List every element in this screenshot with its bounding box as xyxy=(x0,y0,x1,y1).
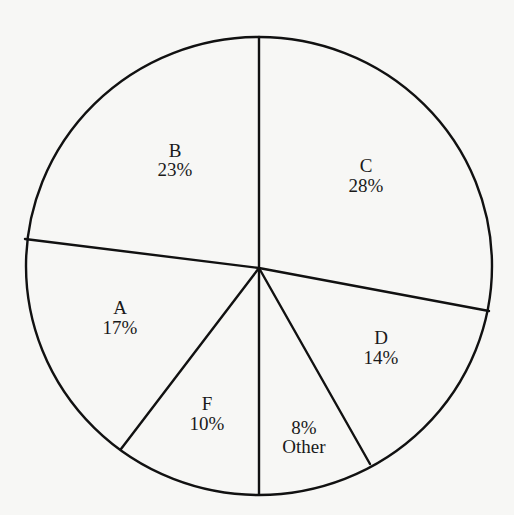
slice-d-value: 14% xyxy=(364,347,399,368)
slice-label-f: F 10% xyxy=(190,393,225,434)
divider-c-d xyxy=(259,268,489,311)
slice-d-name: D xyxy=(374,327,388,348)
slice-b-name: B xyxy=(169,140,182,161)
slice-label-d: D 14% xyxy=(364,327,399,368)
slice-c-value: 28% xyxy=(349,175,384,196)
slice-dividers xyxy=(25,37,489,494)
slice-a-value: 17% xyxy=(103,317,138,338)
slice-a-name: A xyxy=(113,297,127,318)
slice-other-name: Other xyxy=(282,436,326,457)
slice-b-value: 23% xyxy=(158,159,193,180)
slice-c-name: C xyxy=(360,155,373,176)
divider-a-b xyxy=(25,239,259,268)
slice-label-a: A 17% xyxy=(103,297,138,338)
pie-chart: B 23% C 28% A 17% D 14% F 10% 8% Other xyxy=(0,0,514,515)
slice-f-value: 10% xyxy=(190,413,225,434)
slice-other-value: 8% xyxy=(291,417,317,438)
slice-label-b: B 23% xyxy=(158,140,193,180)
slice-f-name: F xyxy=(202,393,213,414)
slice-label-c: C 28% xyxy=(349,155,384,196)
slice-label-other: 8% Other xyxy=(282,417,326,457)
